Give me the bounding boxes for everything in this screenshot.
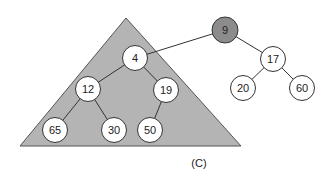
- tree-node-17: 17: [261, 47, 286, 72]
- node-label: 19: [160, 84, 172, 96]
- binary-tree-diagram: 9 4 17 12 19 20 60 65 30 50 (C): [0, 0, 330, 179]
- node-label: 4: [132, 52, 138, 64]
- node-label: 20: [237, 82, 249, 94]
- tree-node-9: 9: [212, 17, 238, 43]
- tree-node-20: 20: [231, 76, 256, 101]
- node-label: 12: [82, 83, 94, 95]
- node-label: 17: [267, 53, 279, 65]
- tree-node-50: 50: [138, 118, 163, 143]
- tree-node-60: 60: [290, 76, 315, 101]
- tree-node-4: 4: [123, 46, 148, 71]
- figure-caption: (C): [191, 157, 206, 169]
- node-label: 50: [144, 124, 156, 136]
- tree-node-65: 65: [43, 118, 68, 143]
- node-label: 9: [222, 24, 228, 36]
- node-label: 30: [108, 124, 120, 136]
- tree-node-30: 30: [102, 118, 127, 143]
- tree-node-12: 12: [76, 77, 101, 102]
- tree-node-19: 19: [154, 78, 179, 103]
- node-label: 65: [49, 124, 61, 136]
- node-label: 60: [296, 82, 308, 94]
